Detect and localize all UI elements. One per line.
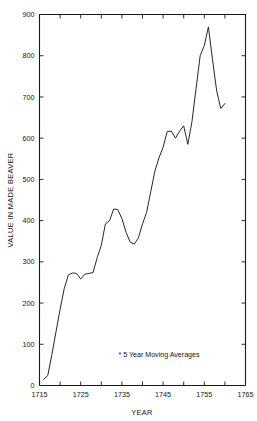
y-tick-label: 800 [23,51,35,60]
y-tick-label: 100 [23,340,35,349]
x-tick-label: 1735 [114,390,130,399]
x-tick-label: 1725 [73,390,89,399]
y-tick-label: 500 [23,175,35,184]
x-tick-label: 1755 [196,390,212,399]
y-axis-ticks [40,15,44,386]
plot-frame [40,14,246,386]
x-tick-label: 1745 [155,390,171,399]
y-tick-label: 300 [23,257,35,266]
moving-average-note: * 5 Year Moving Averages [118,351,200,359]
x-tick-label: 1715 [32,390,48,399]
top-axis-ticks [40,15,246,19]
chart-figure: 0100200300400500600700800900 17151725173… [0,0,257,421]
x-axis-title: YEAR [131,408,153,417]
line-chart-svg: 0100200300400500600700800900 17151725173… [0,0,257,421]
data-series-line [44,27,225,379]
right-axis-ticks [242,15,246,386]
y-axis-tick-labels: 0100200300400500600700800900 [23,10,35,390]
x-axis-ticks [40,382,246,386]
y-tick-label: 900 [23,10,35,19]
y-tick-label: 200 [23,299,35,308]
x-tick-label: 1765 [238,390,254,399]
y-tick-label: 700 [23,93,35,102]
x-axis-tick-labels: 171517251735174517551765 [32,390,254,399]
y-tick-label: 600 [23,134,35,143]
y-tick-label: 400 [23,216,35,225]
y-axis-title: VALUE IN MADE BEAVER [6,152,15,247]
